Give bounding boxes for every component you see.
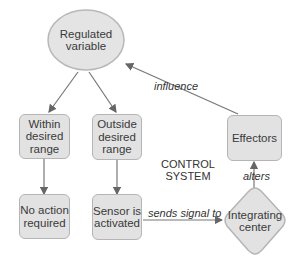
control-system-line2: SYSTEM (160, 170, 216, 182)
effectors-box: Effectors (227, 115, 282, 161)
control-system-annotation: CONTROL SYSTEM (160, 158, 216, 182)
sends-signal-label: sends signal to (148, 207, 221, 219)
integrating-center-label: Integrating center (228, 205, 282, 237)
no-action-box: No action required (19, 194, 70, 239)
outside-range-box: Outside desired range (92, 114, 142, 160)
within-range-box: Within desired range (19, 114, 70, 159)
regulated-variable-label: Regulated variable (48, 20, 124, 60)
arrow-to-outside (89, 72, 116, 112)
alters-label: alters (243, 170, 270, 182)
control-system-line1: CONTROL (160, 158, 216, 170)
influence-label: influence (154, 80, 198, 92)
sensor-box: Sensor is activated (92, 194, 142, 240)
arrow-to-within (49, 72, 78, 112)
